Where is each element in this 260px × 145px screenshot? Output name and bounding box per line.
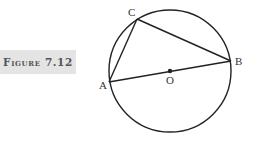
center-point-o xyxy=(168,69,172,73)
point-label-b: B xyxy=(235,55,242,67)
geometry-diagram: C A B O xyxy=(0,0,260,145)
segment-cb xyxy=(137,19,231,61)
point-label-a: A xyxy=(99,79,107,91)
point-label-o: O xyxy=(166,74,174,86)
point-label-c: C xyxy=(128,6,135,18)
